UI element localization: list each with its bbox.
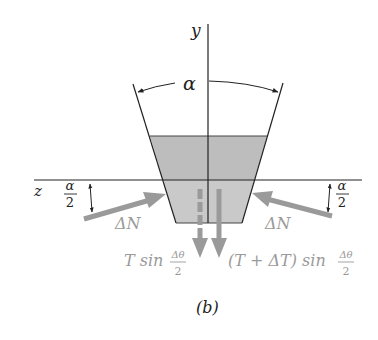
figure-caption: (b) [196,298,219,317]
svg-text:T sin: T sin [124,251,163,270]
half-angle-right-arrow [328,184,330,212]
svg-text:α: α [66,178,75,193]
half-angle-right-label: α 2 [336,178,349,210]
half-angle-left-arrow [90,184,92,212]
v-belt-free-body-diagram: y z α α 2 α 2 ΔN ΔN T sin Δθ 2 (T + ΔT) … [0,0,378,340]
svg-text:(T + ΔT) sin: (T + ΔT) sin [228,251,326,270]
svg-text:2: 2 [338,195,346,210]
tension-right-label: (T + ΔT) sin Δθ 2 [228,249,354,278]
half-angle-left-label: α 2 [64,178,77,210]
y-axis-label: y [190,20,201,40]
svg-text:2: 2 [66,195,74,210]
svg-text:Δθ: Δθ [338,249,352,260]
normal-force-right-arrow [252,191,332,216]
alpha-label: α [183,72,196,94]
normal-force-right-label: ΔN [264,214,292,233]
svg-text:2: 2 [175,265,182,278]
alpha-arc-left [138,83,175,92]
svg-text:2: 2 [343,265,350,278]
tension-left-label: T sin Δθ 2 [124,249,186,278]
svg-text:α: α [338,178,347,193]
normal-force-left-label: ΔN [114,214,142,233]
alpha-arc-right [209,81,278,92]
svg-text:Δθ: Δθ [170,249,184,260]
z-axis-label: z [33,182,42,200]
